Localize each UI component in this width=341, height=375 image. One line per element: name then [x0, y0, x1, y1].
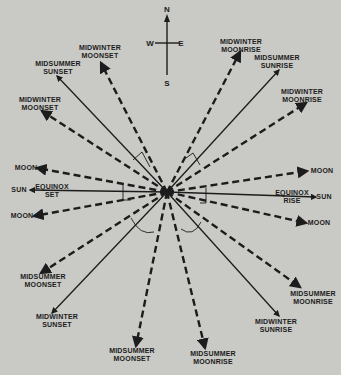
label-equinox-rise: EQUINOX RISE — [275, 189, 309, 205]
ray-midwinter-sunrise — [167, 192, 279, 316]
label-midwinter-moonset-nw-inner: MIDWINTER MOONSET — [19, 96, 61, 112]
label-midwinter-moonrise-ne-outer: MIDWINTER MOONRISE — [220, 38, 262, 54]
compass-west: W — [146, 39, 154, 48]
label-sun-west: SUN — [11, 186, 26, 194]
compass-rose — [155, 14, 179, 75]
label-moon-west-lower: MOON — [11, 212, 34, 220]
label-moon-west-upper: MOON — [15, 164, 38, 172]
label-midwinter-sunset: MIDWINTER SUNSET — [36, 313, 78, 329]
label-midsummer-moonrise-se-inner: MIDSUMMER MOONRISE — [290, 290, 336, 306]
compass-south: S — [164, 79, 169, 88]
label-midsummer-sunrise: MIDSUMMER SUNRISE — [254, 54, 300, 70]
ray-midsummer-moonset-sw-outer — [136, 192, 167, 346]
label-midsummer-moonrise-se-outer: MIDSUMMER MOONRISE — [190, 350, 236, 366]
ray-midwinter-moonset-nw-inner — [42, 111, 167, 192]
label-moon-east-upper: MOON — [311, 167, 334, 175]
ray-midwinter-moonset-nw-outer — [101, 63, 167, 192]
label-midwinter-sunrise: MIDWINTER SUNRISE — [255, 318, 297, 334]
label-midsummer-moonset-sw-inner: MIDSUMMER MOONSET — [20, 273, 66, 289]
label-sun-east: SUN — [316, 193, 331, 201]
observer-center — [165, 190, 170, 195]
label-moon-east-lower: MOON — [308, 219, 331, 227]
ray-midwinter-moonrise-ne-outer — [167, 52, 240, 192]
alignment-diagram: N W E S MIDWINTER MOONSET MIDSUMMER SUNS… — [0, 0, 341, 375]
label-equinox-set: EQUINOX SET — [35, 183, 69, 199]
label-midsummer-moonset-sw-outer: MIDSUMMER MOONSET — [109, 347, 155, 363]
label-midsummer-sunset: MIDSUMMER SUNSET — [35, 60, 81, 76]
compass-north: N — [164, 5, 170, 14]
ray-midsummer-sunset — [57, 76, 167, 192]
label-midwinter-moonrise-ne-inner: MIDWINTER MOONRISE — [281, 88, 323, 104]
angle-mark-se — [181, 222, 201, 232]
compass-east: E — [178, 39, 183, 48]
label-midwinter-moonset-nw-outer: MIDWINTER MOONSET — [79, 44, 121, 60]
compass-north-arrow-icon — [164, 14, 170, 22]
